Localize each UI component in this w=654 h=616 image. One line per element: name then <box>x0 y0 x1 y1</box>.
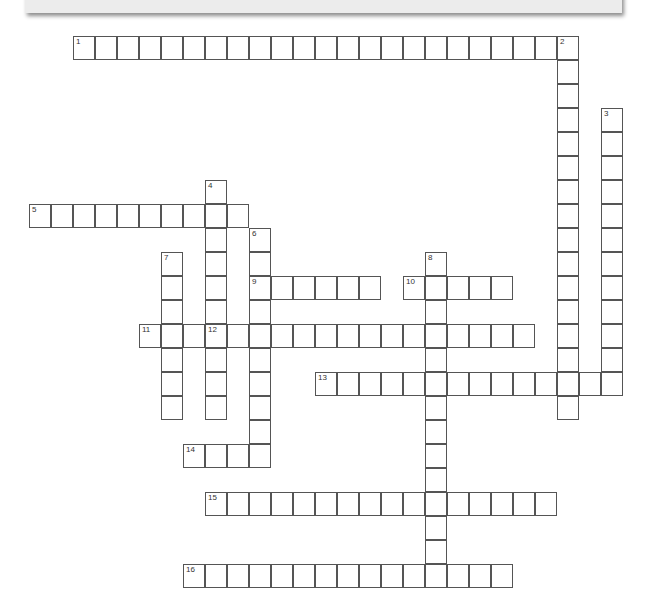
crossword-cell[interactable] <box>271 36 293 60</box>
crossword-cell[interactable] <box>381 564 403 588</box>
crossword-cell[interactable]: 13 <box>315 372 337 396</box>
crossword-cell[interactable] <box>227 492 249 516</box>
crossword-cell[interactable] <box>601 204 623 228</box>
crossword-cell[interactable] <box>271 276 293 300</box>
crossword-cell[interactable] <box>315 564 337 588</box>
crossword-cell[interactable] <box>425 516 447 540</box>
crossword-cell[interactable] <box>557 84 579 108</box>
crossword-cell[interactable]: 14 <box>183 444 205 468</box>
crossword-cell[interactable] <box>293 324 315 348</box>
crossword-cell[interactable]: 1 <box>73 36 95 60</box>
crossword-cell[interactable] <box>117 204 139 228</box>
crossword-cell[interactable] <box>205 36 227 60</box>
crossword-cell[interactable] <box>513 36 535 60</box>
crossword-cell[interactable] <box>513 324 535 348</box>
crossword-cell[interactable] <box>205 228 227 252</box>
crossword-cell[interactable] <box>447 276 469 300</box>
crossword-cell[interactable] <box>337 564 359 588</box>
crossword-cell[interactable] <box>51 204 73 228</box>
crossword-cell[interactable] <box>425 420 447 444</box>
crossword-cell[interactable] <box>227 444 249 468</box>
crossword-cell[interactable] <box>403 372 425 396</box>
crossword-cell[interactable] <box>381 36 403 60</box>
crossword-cell[interactable] <box>271 492 293 516</box>
crossword-cell[interactable] <box>205 300 227 324</box>
crossword-cell[interactable] <box>557 396 579 420</box>
crossword-cell[interactable] <box>557 372 579 396</box>
crossword-cell[interactable] <box>425 36 447 60</box>
crossword-cell[interactable] <box>469 324 491 348</box>
crossword-cell[interactable] <box>425 492 447 516</box>
crossword-cell[interactable] <box>403 36 425 60</box>
crossword-cell[interactable] <box>557 108 579 132</box>
crossword-cell[interactable]: 4 <box>205 180 227 204</box>
crossword-cell[interactable] <box>359 564 381 588</box>
crossword-cell[interactable] <box>359 324 381 348</box>
crossword-cell[interactable] <box>161 204 183 228</box>
crossword-cell[interactable] <box>447 492 469 516</box>
crossword-cell[interactable]: 7 <box>161 252 183 276</box>
crossword-cell[interactable]: 3 <box>601 108 623 132</box>
crossword-cell[interactable] <box>73 204 95 228</box>
crossword-cell[interactable] <box>425 372 447 396</box>
crossword-cell[interactable] <box>513 492 535 516</box>
crossword-cell[interactable] <box>469 36 491 60</box>
crossword-cell[interactable] <box>249 492 271 516</box>
crossword-cell[interactable] <box>117 36 139 60</box>
crossword-cell[interactable] <box>249 420 271 444</box>
crossword-cell[interactable] <box>205 276 227 300</box>
crossword-cell[interactable] <box>601 324 623 348</box>
crossword-cell[interactable] <box>447 372 469 396</box>
crossword-cell[interactable] <box>601 132 623 156</box>
crossword-cell[interactable] <box>491 324 513 348</box>
crossword-cell[interactable] <box>425 396 447 420</box>
crossword-cell[interactable] <box>205 372 227 396</box>
crossword-cell[interactable] <box>337 276 359 300</box>
crossword-cell[interactable]: 2 <box>557 36 579 60</box>
crossword-cell[interactable]: 10 <box>403 276 425 300</box>
crossword-cell[interactable] <box>249 396 271 420</box>
crossword-cell[interactable] <box>491 36 513 60</box>
crossword-cell[interactable] <box>359 36 381 60</box>
crossword-cell[interactable] <box>139 204 161 228</box>
crossword-cell[interactable] <box>469 276 491 300</box>
crossword-cell[interactable] <box>601 348 623 372</box>
crossword-cell[interactable] <box>205 204 227 228</box>
crossword-cell[interactable] <box>425 300 447 324</box>
crossword-cell[interactable] <box>337 324 359 348</box>
crossword-cell[interactable] <box>337 372 359 396</box>
crossword-cell[interactable] <box>205 348 227 372</box>
crossword-cell[interactable] <box>601 276 623 300</box>
crossword-cell[interactable] <box>425 324 447 348</box>
crossword-cell[interactable] <box>183 324 205 348</box>
crossword-cell[interactable] <box>601 156 623 180</box>
crossword-cell[interactable] <box>513 372 535 396</box>
crossword-cell[interactable] <box>469 564 491 588</box>
crossword-cell[interactable] <box>469 492 491 516</box>
crossword-cell[interactable] <box>359 492 381 516</box>
crossword-cell[interactable] <box>491 372 513 396</box>
crossword-cell[interactable] <box>557 180 579 204</box>
crossword-cell[interactable] <box>249 36 271 60</box>
crossword-cell[interactable] <box>557 300 579 324</box>
crossword-cell[interactable] <box>205 564 227 588</box>
crossword-cell[interactable] <box>425 276 447 300</box>
crossword-cell[interactable] <box>161 276 183 300</box>
crossword-cell[interactable] <box>183 36 205 60</box>
crossword-cell[interactable] <box>183 204 205 228</box>
crossword-cell[interactable] <box>139 36 161 60</box>
crossword-cell[interactable] <box>161 396 183 420</box>
crossword-cell[interactable] <box>447 36 469 60</box>
crossword-cell[interactable] <box>425 564 447 588</box>
crossword-cell[interactable] <box>535 36 557 60</box>
crossword-cell[interactable]: 16 <box>183 564 205 588</box>
crossword-cell[interactable] <box>491 492 513 516</box>
crossword-cell[interactable] <box>447 324 469 348</box>
crossword-cell[interactable] <box>271 324 293 348</box>
crossword-cell[interactable] <box>425 468 447 492</box>
crossword-cell[interactable] <box>557 60 579 84</box>
crossword-cell[interactable] <box>249 324 271 348</box>
crossword-cell[interactable]: 8 <box>425 252 447 276</box>
crossword-cell[interactable] <box>425 444 447 468</box>
crossword-cell[interactable] <box>95 204 117 228</box>
